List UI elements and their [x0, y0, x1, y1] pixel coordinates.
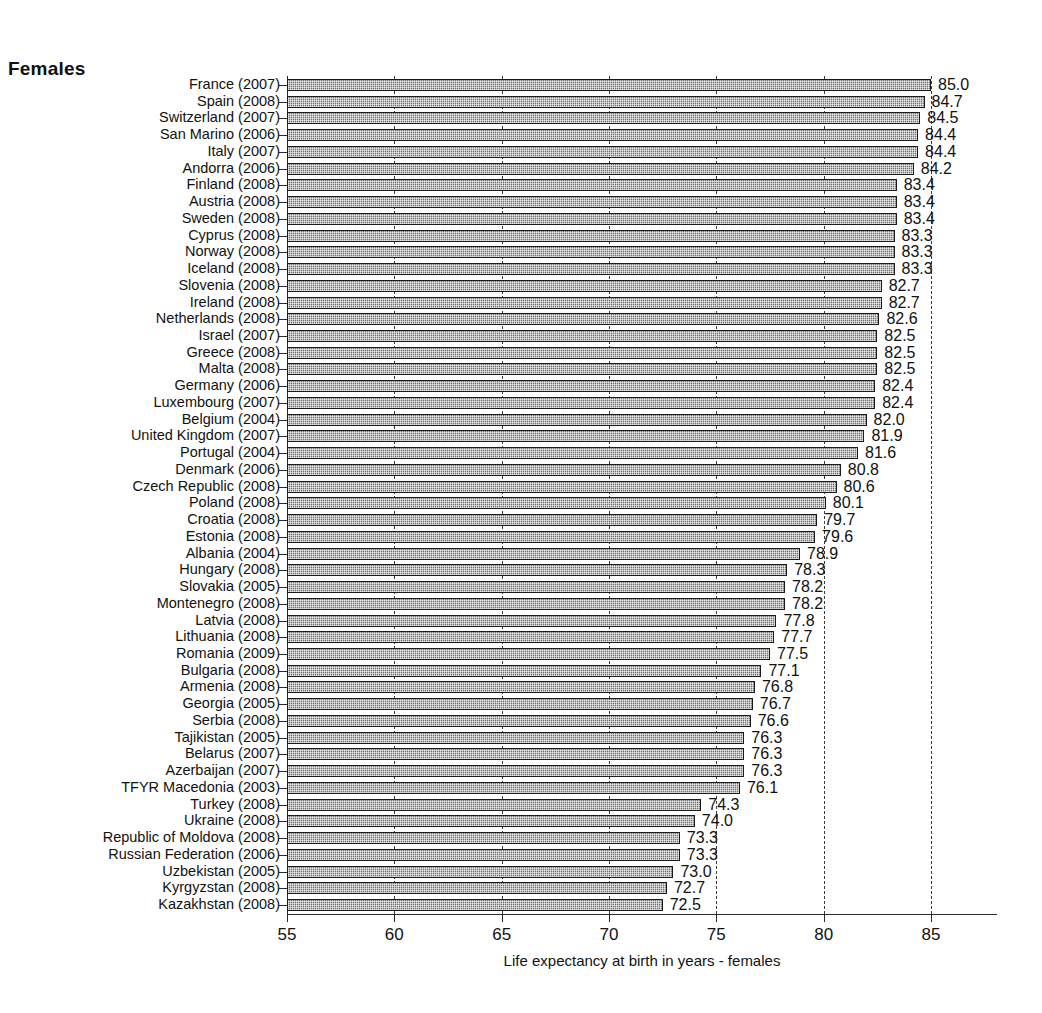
bar: [287, 363, 877, 375]
bar-row: Italy (2007)84.4: [0, 146, 1042, 160]
bar: [287, 380, 875, 392]
bar-chart: France (2007)85.0Spain (2008)84.7Switzer…: [0, 0, 1042, 1013]
y-axis-tick: [278, 805, 287, 806]
bar-row: Portugal (2004)81.6: [0, 447, 1042, 461]
bar: [287, 96, 925, 108]
y-axis-tick: [278, 420, 287, 421]
bar-value-label: 77.8: [783, 612, 814, 629]
bar: [287, 615, 776, 627]
x-axis-tick: [931, 914, 932, 922]
x-axis-tick-label: 65: [492, 925, 511, 945]
bar-value-label: 84.5: [927, 109, 958, 126]
bar: [287, 882, 667, 894]
bar: [287, 548, 800, 560]
bar: [287, 313, 879, 325]
bar: [287, 129, 918, 141]
bar: [287, 297, 882, 309]
bar-row: Georgia (2005)76.7: [0, 698, 1042, 712]
bar: [287, 598, 785, 610]
bar-row: Kazakhstan (2008)72.5: [0, 899, 1042, 913]
bar-value-label: 77.5: [777, 645, 808, 662]
y-axis-tick: [278, 872, 287, 873]
category-label: Tajikistan (2005): [174, 730, 280, 745]
category-label: Croatia (2008): [187, 512, 280, 527]
y-axis-tick: [278, 185, 287, 186]
bar: [287, 246, 895, 258]
y-axis-tick: [278, 269, 287, 270]
y-axis-tick: [278, 570, 287, 571]
bar-row: Belarus (2007)76.3: [0, 748, 1042, 762]
bar-value-label: 84.4: [925, 126, 956, 143]
bar-row: Uzbekistan (2005)73.0: [0, 866, 1042, 880]
bar-value-label: 84.4: [925, 143, 956, 160]
y-axis-tick: [278, 604, 287, 605]
bar-value-label: 78.9: [807, 545, 838, 562]
bar-value-label: 78.2: [792, 595, 823, 612]
bar-row: Tajikistan (2005)76.3: [0, 732, 1042, 746]
bar: [287, 280, 882, 292]
bar: [287, 581, 785, 593]
y-axis-tick: [278, 704, 287, 705]
bar: [287, 799, 701, 811]
bar-value-label: 82.0: [874, 411, 905, 428]
bar-value-label: 72.7: [674, 879, 705, 896]
bar-value-label: 76.1: [747, 779, 778, 796]
y-axis-tick: [278, 654, 287, 655]
category-label: TFYR Macedonia (2003): [121, 780, 280, 795]
bar-value-label: 73.3: [687, 829, 718, 846]
bar-value-label: 72.5: [670, 896, 701, 913]
bar-row: United Kingdom (2007)81.9: [0, 430, 1042, 444]
category-label: Poland (2008): [189, 495, 280, 510]
x-axis-tick: [287, 914, 288, 922]
x-axis-tick-label: 70: [600, 925, 619, 945]
y-axis-tick: [278, 336, 287, 337]
bar-row: Azerbaijan (2007)76.3: [0, 765, 1042, 779]
category-label: Turkey (2008): [190, 797, 280, 812]
bar-value-label: 82.4: [882, 394, 913, 411]
y-axis-tick: [278, 303, 287, 304]
bar-row: Greece (2008)82.5: [0, 347, 1042, 361]
y-axis-tick: [278, 236, 287, 237]
category-label: Kazakhstan (2008): [158, 897, 280, 912]
bar-value-label: 78.2: [792, 578, 823, 595]
category-label: Kyrgyzstan (2008): [162, 880, 280, 895]
category-label: Armenia (2008): [180, 679, 280, 694]
category-label: Austria (2008): [189, 194, 280, 209]
category-label: Italy (2007): [207, 144, 280, 159]
bar: [287, 146, 918, 158]
bar-value-label: 76.3: [751, 729, 782, 746]
bar-value-label: 76.3: [751, 745, 782, 762]
bar: [287, 414, 867, 426]
category-label: Czech Republic (2008): [133, 479, 281, 494]
bar: [287, 698, 753, 710]
x-axis-tick: [609, 914, 610, 922]
bar: [287, 765, 744, 777]
bar: [287, 815, 695, 827]
category-label: Latvia (2008): [195, 613, 280, 628]
bar-value-label: 82.5: [884, 327, 915, 344]
category-label: Russian Federation (2006): [108, 847, 280, 862]
category-label: Belgium (2004): [182, 412, 280, 427]
chart-page: Females France (2007)85.0Spain (2008)84.…: [0, 0, 1042, 1013]
bar-value-label: 84.2: [921, 160, 952, 177]
bar-row: Ireland (2008)82.7: [0, 297, 1042, 311]
bar-row: Serbia (2008)76.6: [0, 715, 1042, 729]
y-axis-tick: [278, 152, 287, 153]
bar: [287, 564, 787, 576]
y-axis-tick: [278, 838, 287, 839]
bar: [287, 866, 673, 878]
bar-value-label: 76.6: [758, 712, 789, 729]
x-axis-tick-label: 80: [814, 925, 833, 945]
bar: [287, 397, 875, 409]
bar: [287, 648, 770, 660]
category-label: Finland (2008): [187, 177, 281, 192]
bar-value-label: 83.3: [902, 227, 933, 244]
bar-value-label: 73.0: [680, 863, 711, 880]
bar-row: Malta (2008)82.5: [0, 363, 1042, 377]
bar-row: Czech Republic (2008)80.6: [0, 481, 1042, 495]
y-axis-tick: [278, 771, 287, 772]
category-label: Denmark (2006): [175, 462, 280, 477]
y-axis-tick: [278, 687, 287, 688]
bar-row: Turkey (2008)74.3: [0, 799, 1042, 813]
category-label: Luxembourg (2007): [153, 395, 280, 410]
